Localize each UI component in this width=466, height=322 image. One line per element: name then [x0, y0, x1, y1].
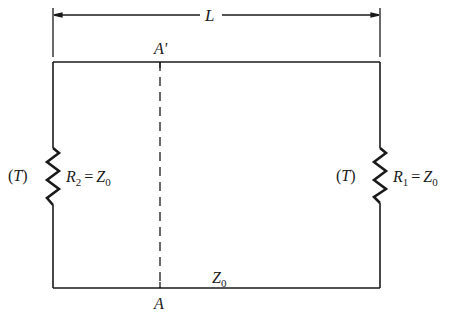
circuit-diagram: L A' A Z0 (T) R2=Z0 (T) R1=Z0	[0, 0, 466, 322]
left-resistor-icon	[47, 148, 59, 205]
left-temp-label: (T)	[8, 167, 28, 185]
line-impedance-label: Z0	[212, 269, 227, 289]
right-resistor-icon	[374, 148, 386, 203]
dimension-L	[53, 8, 380, 57]
left-resistor-label: R2=Z0	[65, 168, 111, 188]
dimension-label: L	[204, 6, 214, 25]
right-temp-label: (T)	[336, 167, 356, 185]
label-A: A	[153, 295, 164, 312]
label-A-prime: A'	[153, 40, 168, 57]
right-resistor-label: R1=Z0	[392, 168, 438, 188]
